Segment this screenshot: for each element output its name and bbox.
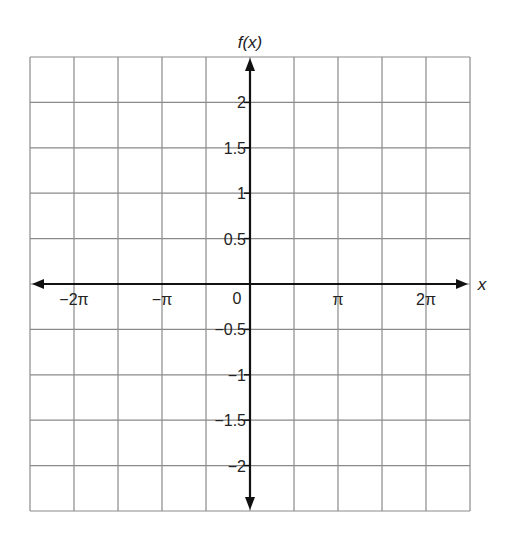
x-tick-label: −π bbox=[152, 291, 172, 308]
y-axis-down-arrow-icon bbox=[245, 497, 255, 510]
y-tick-label: 2 bbox=[237, 94, 246, 111]
y-axis-title: f(x) bbox=[238, 33, 263, 52]
x-tick-label: π bbox=[332, 291, 343, 308]
y-axis-up-arrow-icon bbox=[245, 58, 255, 71]
y-tick-label: 0.5 bbox=[224, 231, 246, 248]
x-tick-label: 2π bbox=[416, 291, 436, 308]
x-axis-right-arrow-icon bbox=[456, 279, 468, 289]
y-tick-label: −1 bbox=[228, 367, 246, 384]
y-tick-label: −0.5 bbox=[214, 321, 246, 338]
origin-label: 0 bbox=[233, 290, 242, 307]
x-axis-title: x bbox=[477, 275, 487, 294]
y-tick-label: −2 bbox=[228, 458, 246, 475]
y-tick-label: 1.5 bbox=[224, 140, 246, 157]
y-tick-label: −1.5 bbox=[214, 412, 246, 429]
x-tick-label: −2π bbox=[59, 291, 88, 308]
coordinate-grid-chart: f(x) x 0 −2π−ππ2π 21.510.5−0.5−1−1.5−2 bbox=[0, 0, 508, 533]
axes bbox=[32, 58, 468, 510]
y-tick-label: 1 bbox=[237, 185, 246, 202]
x-tick-labels: −2π−ππ2π bbox=[59, 291, 436, 308]
x-axis-left-arrow-icon bbox=[32, 279, 44, 289]
